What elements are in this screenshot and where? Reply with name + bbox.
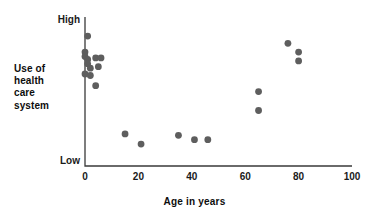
data-point <box>92 82 99 89</box>
y-axis-title-line-2: care <box>14 87 49 99</box>
data-point <box>84 33 91 40</box>
data-point <box>191 136 198 143</box>
y-axis-title-line-0: Use of <box>14 63 49 75</box>
x-tick-label-40: 40 <box>172 171 212 182</box>
y-axis-title-line-1: health <box>14 75 49 87</box>
data-point <box>122 130 129 137</box>
x-tick-label-80: 80 <box>279 171 319 182</box>
plot-area <box>0 0 389 222</box>
data-point <box>98 55 105 62</box>
scatter-chart: Use ofhealthcaresystem HighLow 020406080… <box>0 0 389 222</box>
y-label-low: Low <box>40 155 80 166</box>
data-point <box>295 57 302 64</box>
x-tick-label-20: 20 <box>118 171 158 182</box>
x-tick-label-0: 0 <box>65 171 105 182</box>
data-point <box>95 63 102 70</box>
data-point <box>255 88 262 95</box>
axis-lines <box>85 17 352 166</box>
data-point <box>138 141 145 148</box>
y-axis-title: Use ofhealthcaresystem <box>14 63 49 112</box>
x-tick-label-60: 60 <box>225 171 265 182</box>
data-point <box>255 107 262 114</box>
data-point <box>285 40 292 47</box>
data-point <box>87 72 94 79</box>
x-tick-label-100: 100 <box>332 171 372 182</box>
x-axis-title: Age in years <box>0 196 389 207</box>
data-point <box>204 136 211 143</box>
data-point <box>87 65 94 72</box>
data-point <box>175 132 182 139</box>
y-axis-title-line-3: system <box>14 100 49 112</box>
data-point <box>295 49 302 56</box>
y-label-high: High <box>40 14 80 25</box>
